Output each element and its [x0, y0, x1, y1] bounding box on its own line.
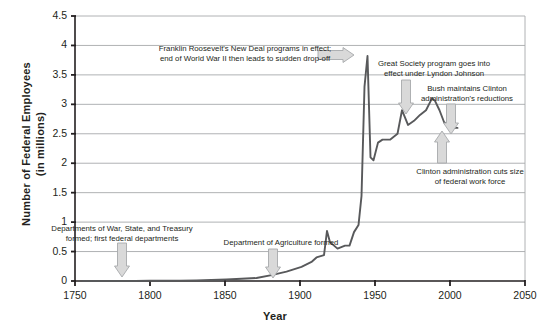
annotation-label-first-departments: Departments of War, State, and Treasury … [47, 224, 197, 243]
y-tick-label: 2.5 [33, 127, 67, 139]
annotation-label-great-society: Great Society program goes into effect u… [364, 59, 504, 78]
x-tick-label: 1800 [125, 289, 175, 301]
y-tick-label: 3.5 [33, 68, 67, 80]
x-tick-label: 1750 [50, 289, 100, 301]
x-tick-label: 2050 [500, 289, 550, 301]
annotation-label-bush-maintains: Bush maintains Clinton administration's … [407, 84, 527, 103]
y-tick-label: 0 [33, 274, 67, 286]
y-tick-label: 3 [33, 97, 67, 109]
annotation-label-clinton-cuts: Clinton administration cuts size of fede… [400, 167, 540, 186]
x-axis-title: Year [225, 310, 325, 322]
annotation-label-dept-agriculture: Department of Agriculture formed [211, 238, 351, 248]
y-tick-label: 0.5 [33, 245, 67, 257]
annotation-arrow-first-departments [115, 243, 130, 277]
y-tick-label: 4.5 [33, 9, 67, 21]
y-tick-label: 4 [33, 38, 67, 50]
x-tick-label: 1850 [200, 289, 250, 301]
y-tick-label: 2 [33, 156, 67, 168]
y-axis-title-line1: Number of Federal Employees [20, 62, 32, 226]
x-tick-label: 1950 [350, 289, 400, 301]
x-tick-label: 2000 [425, 289, 475, 301]
annotation-label-new-deal-wwii: Franklin Roosevelt's New Deal programs i… [138, 44, 353, 63]
x-tick-label: 1900 [275, 289, 325, 301]
chart-container: Number of Federal Employees (in millions… [0, 0, 556, 332]
y-tick-label: 1.5 [33, 186, 67, 198]
annotation-arrow-bush-maintains [444, 104, 459, 134]
annotation-arrow-clinton-cuts [435, 131, 450, 163]
